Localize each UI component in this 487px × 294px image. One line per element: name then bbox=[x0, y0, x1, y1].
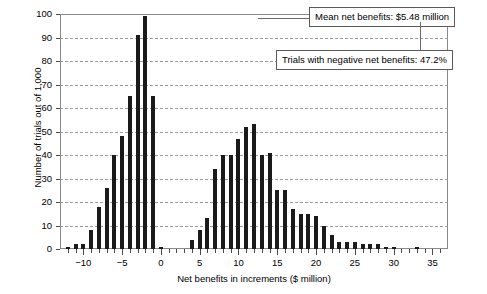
bar bbox=[221, 155, 225, 249]
y-tick-label-30: 30 bbox=[26, 174, 52, 184]
x-tick-4 bbox=[192, 249, 193, 253]
x-tick-8 bbox=[223, 249, 224, 253]
x-major-tick-30 bbox=[394, 249, 395, 255]
bar bbox=[275, 190, 279, 249]
x-tick-label--5: −5 bbox=[107, 258, 137, 268]
x-tick--12 bbox=[68, 249, 69, 253]
bar bbox=[112, 155, 116, 249]
x-tick-21 bbox=[324, 249, 325, 253]
x-tick-24 bbox=[347, 249, 348, 253]
bar bbox=[190, 240, 194, 249]
bar bbox=[136, 35, 140, 249]
x-major-tick-35 bbox=[432, 249, 433, 255]
y-tick-0 bbox=[56, 249, 60, 250]
y-tick-100 bbox=[56, 14, 60, 15]
x-tick-7 bbox=[215, 249, 216, 253]
annotation-mean-net-benefits: Mean net benefits: $5.48 million bbox=[309, 7, 455, 27]
bar bbox=[260, 155, 264, 249]
x-tick-33 bbox=[417, 249, 418, 253]
x-tick-36 bbox=[440, 249, 441, 253]
x-tick-23 bbox=[339, 249, 340, 253]
bar bbox=[244, 127, 248, 249]
y-tick-30 bbox=[56, 179, 60, 180]
x-tick-6 bbox=[207, 249, 208, 253]
y-tick-label-40: 40 bbox=[26, 150, 52, 160]
bar bbox=[213, 169, 217, 249]
x-tick--4 bbox=[130, 249, 131, 253]
x-tick-26 bbox=[363, 249, 364, 253]
x-tick--2 bbox=[145, 249, 146, 253]
x-tick-1 bbox=[169, 249, 170, 253]
y-tick-label-100: 100 bbox=[26, 9, 52, 19]
x-tick-27 bbox=[370, 249, 371, 253]
y-tick-label-20: 20 bbox=[26, 197, 52, 207]
x-tick-label-10: 10 bbox=[223, 258, 253, 268]
x-tick--11 bbox=[76, 249, 77, 253]
x-tick-16 bbox=[285, 249, 286, 253]
x-tick-31 bbox=[401, 249, 402, 253]
bar bbox=[299, 214, 303, 249]
x-tick-9 bbox=[231, 249, 232, 253]
x-tick-label-5: 5 bbox=[185, 258, 215, 268]
x-major-tick-15 bbox=[277, 249, 278, 255]
x-tick-32 bbox=[409, 249, 410, 253]
annotation-leader-line-mean bbox=[258, 18, 309, 19]
x-tick-13 bbox=[262, 249, 263, 253]
y-tick-20 bbox=[56, 202, 60, 203]
bar bbox=[252, 124, 256, 249]
x-tick-34 bbox=[425, 249, 426, 253]
x-tick-12 bbox=[254, 249, 255, 253]
x-tick-label-35: 35 bbox=[417, 258, 447, 268]
x-major-tick-5 bbox=[200, 249, 201, 255]
x-tick-label-20: 20 bbox=[301, 258, 331, 268]
bar bbox=[236, 139, 240, 249]
y-tick-label-0: 0 bbox=[26, 244, 52, 254]
bar bbox=[291, 209, 295, 249]
gridline-90 bbox=[60, 38, 448, 39]
y-tick-label-10: 10 bbox=[26, 221, 52, 231]
bar bbox=[151, 96, 155, 249]
y-tick-label-80: 80 bbox=[26, 56, 52, 66]
bar bbox=[337, 242, 341, 249]
y-tick-label-60: 60 bbox=[26, 103, 52, 113]
bar bbox=[120, 136, 124, 249]
x-tick-22 bbox=[332, 249, 333, 253]
x-tick--3 bbox=[138, 249, 139, 253]
bar bbox=[229, 155, 233, 249]
x-tick--1 bbox=[153, 249, 154, 253]
x-tick-11 bbox=[246, 249, 247, 253]
y-tick-10 bbox=[56, 226, 60, 227]
y-tick-70 bbox=[56, 85, 60, 86]
x-major-tick-0 bbox=[161, 249, 162, 255]
x-major-tick-25 bbox=[355, 249, 356, 255]
x-tick-28 bbox=[378, 249, 379, 253]
bar bbox=[314, 216, 318, 249]
x-tick-29 bbox=[386, 249, 387, 253]
x-tick-label-15: 15 bbox=[262, 258, 292, 268]
x-tick-14 bbox=[270, 249, 271, 253]
x-tick-label-25: 25 bbox=[340, 258, 370, 268]
x-tick--9 bbox=[91, 249, 92, 253]
bar bbox=[345, 242, 349, 249]
gridline-70 bbox=[60, 85, 448, 86]
x-major-tick-10 bbox=[238, 249, 239, 255]
y-tick-label-70: 70 bbox=[26, 80, 52, 90]
x-tick-17 bbox=[293, 249, 294, 253]
x-tick-label--10: −10 bbox=[68, 258, 98, 268]
y-tick-90 bbox=[56, 38, 60, 39]
x-tick--8 bbox=[99, 249, 100, 253]
x-major-tick--5 bbox=[122, 249, 123, 255]
bar bbox=[330, 235, 334, 249]
x-tick-label-0: 0 bbox=[146, 258, 176, 268]
x-tick-19 bbox=[308, 249, 309, 253]
bar bbox=[143, 16, 147, 249]
annotation-leader-line-negative bbox=[420, 22, 421, 50]
bar bbox=[268, 153, 272, 249]
bar bbox=[105, 188, 109, 249]
gridline-60 bbox=[60, 108, 448, 109]
bar bbox=[128, 96, 132, 249]
x-tick-3 bbox=[184, 249, 185, 253]
bar bbox=[89, 230, 93, 249]
y-tick-60 bbox=[56, 108, 60, 109]
bar bbox=[306, 214, 310, 249]
